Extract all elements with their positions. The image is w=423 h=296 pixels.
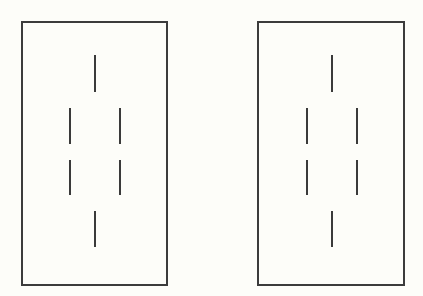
- line-segment: [119, 160, 121, 195]
- line-segment: [94, 211, 96, 247]
- line-segment: [306, 160, 308, 195]
- line-segment: [356, 160, 358, 195]
- line-segment: [69, 108, 71, 144]
- line-segment: [356, 108, 358, 144]
- line-segment: [94, 55, 96, 92]
- line-segment: [331, 55, 333, 92]
- line-segment: [69, 160, 71, 195]
- line-segment: [306, 108, 308, 144]
- line-segment: [119, 108, 121, 144]
- line-segment: [331, 211, 333, 247]
